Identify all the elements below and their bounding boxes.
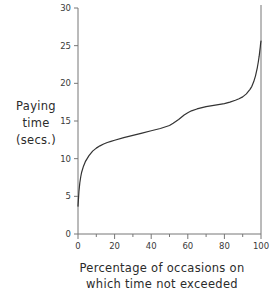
series-line: [78, 41, 261, 206]
x-axis-label-line-2: which time not exceeded: [48, 276, 276, 292]
y-axis-tick-label: 30: [60, 3, 71, 13]
y-axis-tick-label: 5: [66, 191, 71, 201]
x-axis-tick-label: 60: [182, 241, 193, 251]
y-axis-label: Paying time (secs.): [0, 98, 72, 149]
y-axis-tick-label: 0: [66, 229, 71, 239]
y-axis-tick-label: 20: [60, 78, 71, 88]
y-axis-tick-label: 25: [60, 41, 71, 51]
y-axis-label-line-2: time: [0, 115, 72, 132]
x-axis-tick-label: 40: [146, 241, 157, 251]
x-axis-label-line-1: Percentage of occasions on: [48, 260, 276, 276]
x-axis: 020406080100: [75, 234, 269, 251]
x-axis-tick-label: 20: [109, 241, 120, 251]
y-axis-tick-label: 10: [60, 154, 71, 164]
x-axis-label: Percentage of occasions on which time no…: [48, 260, 276, 292]
x-axis-tick-label: 100: [253, 241, 269, 251]
chart-figure: Paying time (secs.) Percentage of occasi…: [0, 0, 276, 295]
x-axis-tick-label: 80: [219, 241, 230, 251]
data-series: [78, 41, 261, 206]
x-axis-tick-label: 0: [75, 241, 80, 251]
y-axis-label-line-3: (secs.): [0, 132, 72, 149]
y-axis-label-line-1: Paying: [0, 98, 72, 115]
